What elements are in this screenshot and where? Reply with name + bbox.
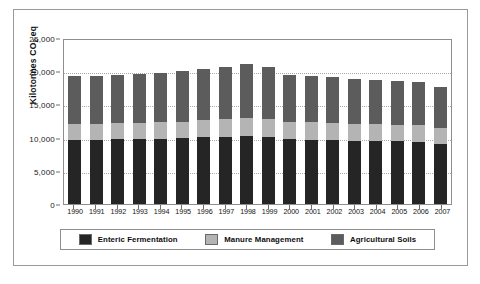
x-axis-tick-label: 2004 [370,207,383,216]
bar-1991[interactable] [90,76,103,204]
bar-segment-agricultural-soils [369,80,382,124]
bar-1995[interactable] [176,71,189,204]
bar-segment-enteric-fermentation [305,140,318,204]
legend-swatch-manure-management [205,234,218,245]
y-axis-tick-label: 20,000 [29,68,55,77]
bar-segment-manure-management [391,125,404,142]
bar-segment-agricultural-soils [262,67,275,119]
bar-segment-manure-management [305,122,318,139]
bar-2001[interactable] [305,76,318,204]
bar-1993[interactable] [133,74,146,204]
plot-inner [64,40,451,204]
stacked-bar-chart: Kilotonnes CO2 eq 05,00010,00015,00020,0… [14,10,467,265]
y-axis-tick-mark [56,205,60,206]
y-axis-tick-mark [56,39,60,40]
legend-swatch-agricultural-soils [331,234,344,245]
y-axis-tick-mark [56,138,60,139]
bar-2007[interactable] [434,87,447,205]
bar-segment-manure-management [68,124,81,139]
bar-1996[interactable] [197,69,210,204]
y-axis-tick-label: 10,000 [29,134,55,143]
bar-segment-enteric-fermentation [90,140,103,204]
bar-segment-enteric-fermentation [197,137,210,204]
x-axis-tick-label: 1996 [197,207,210,216]
bar-1992[interactable] [111,75,124,204]
bar-segment-enteric-fermentation [326,140,339,204]
bar-segment-enteric-fermentation [262,137,275,204]
bar-1999[interactable] [262,67,275,204]
x-axis-tick-label: 1995 [175,207,188,216]
bar-1990[interactable] [68,76,81,204]
y-axis-tick-label: 5,000 [34,167,55,176]
legend-item[interactable]: Agricultural Soils [331,234,416,245]
y-axis-tick-mark [56,72,60,73]
x-axis: 1990199119921993199419951996199719981999… [63,207,452,225]
bar-1997[interactable] [219,67,232,204]
bar-segment-agricultural-soils [197,69,210,120]
bar-segment-agricultural-soils [111,75,124,123]
bar-segment-manure-management [348,124,361,141]
bar-segment-manure-management [412,125,425,141]
bar-segment-agricultural-soils [283,75,296,122]
bar-2005[interactable] [391,81,404,204]
x-axis-tick-label: 1991 [89,207,102,216]
bar-1998[interactable] [240,64,253,204]
y-axis-tick-label: 15,000 [29,101,55,110]
bar-segment-agricultural-soils [305,76,318,122]
bar-segment-manure-management [240,118,253,136]
bar-2004[interactable] [369,80,382,204]
x-axis-tick-label: 2005 [391,207,404,216]
x-axis-tick-label: 1990 [67,207,80,216]
plot-area [63,39,452,205]
bar-segment-agricultural-soils [154,73,167,122]
legend-swatch-enteric-fermentation [79,234,92,245]
x-axis-tick-label: 1997 [219,207,232,216]
bar-segment-manure-management [262,119,275,137]
bar-segment-manure-management [326,123,339,140]
x-axis-tick-label: 2000 [283,207,296,216]
bar-segment-manure-management [283,122,296,139]
bar-segment-agricultural-soils [434,87,447,129]
bar-segment-agricultural-soils [68,76,81,124]
bar-segment-agricultural-soils [176,71,189,121]
x-axis-tick-label: 2003 [348,207,361,216]
x-axis-tick-label: 2006 [413,207,426,216]
bar-segment-agricultural-soils [348,79,361,124]
bar-2006[interactable] [412,82,425,204]
bar-segment-enteric-fermentation [154,139,167,204]
y-axis-tick-label: 0 [50,201,55,210]
bar-1994[interactable] [154,73,167,204]
bar-segment-manure-management [197,120,210,138]
legend-label: Enteric Fermentation [98,235,178,244]
bar-segment-manure-management [369,124,382,141]
y-axis-tick-mark [56,105,60,106]
bar-2002[interactable] [326,77,339,204]
x-axis-tick-label: 1993 [132,207,145,216]
bar-2003[interactable] [348,79,361,204]
bar-segment-manure-management [176,122,189,139]
figure-frame: Kilotonnes CO2 eq 05,00010,00015,00020,0… [13,9,468,266]
bar-segment-enteric-fermentation [133,139,146,204]
bar-segment-enteric-fermentation [240,136,253,204]
x-axis-tick-label: 1992 [111,207,124,216]
bar-segment-manure-management [90,124,103,140]
legend-item[interactable]: Enteric Fermentation [79,234,178,245]
legend-label: Manure Management [224,235,303,244]
y-axis-tick-label: 25,000 [29,35,55,44]
legend-item[interactable]: Manure Management [205,234,303,245]
bar-segment-manure-management [111,123,124,139]
bar-segment-agricultural-soils [412,82,425,126]
bar-segment-manure-management [219,119,232,137]
bar-2000[interactable] [283,75,296,204]
x-axis-tick-label: 2007 [435,207,448,216]
bar-segment-agricultural-soils [133,74,146,123]
bar-segment-enteric-fermentation [68,140,81,204]
bar-segment-enteric-fermentation [412,142,425,204]
x-axis-tick-label: 2002 [327,207,340,216]
bar-segment-manure-management [154,122,167,139]
screenshot-root: Kilotonnes CO2 eq 05,00010,00015,00020,0… [0,0,480,284]
x-axis-tick-label: 1999 [262,207,275,216]
bar-segment-agricultural-soils [219,67,232,119]
x-axis-tick-label: 1998 [240,207,253,216]
bar-segment-agricultural-soils [391,81,404,125]
